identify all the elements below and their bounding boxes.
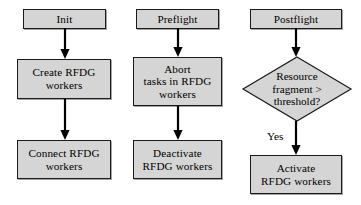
node-abort-tasks[interactable]: Abort tasks in RFDG workers: [133, 57, 222, 106]
edge-label-yes: Yes: [267, 130, 283, 142]
node-abort-tasks-label: Abort tasks in RFDG workers: [142, 63, 214, 101]
node-create-rfdg-workers[interactable]: Create RFDG workers: [17, 59, 111, 99]
node-deactivate-rfdg-workers-label: Deactivate RFDG workers: [141, 147, 215, 172]
node-connect-rfdg-workers[interactable]: Connect RFDG workers: [17, 140, 111, 179]
node-activate-rfdg-workers[interactable]: Activate RFDG workers: [250, 155, 342, 194]
edge-preflight-to-abort: [170, 28, 186, 58]
edge-decision-to-activate: [288, 121, 304, 156]
node-resource-fragment-decision[interactable]: Resource fragment > threshold?: [242, 56, 352, 122]
node-preflight-label: Preflight: [155, 13, 199, 26]
node-init-label: Init: [55, 13, 75, 26]
node-connect-rfdg-workers-label: Connect RFDG workers: [26, 147, 101, 172]
node-deactivate-rfdg-workers[interactable]: Deactivate RFDG workers: [133, 140, 222, 179]
node-preflight[interactable]: Preflight: [136, 9, 219, 29]
node-create-rfdg-workers-label: Create RFDG workers: [31, 66, 98, 91]
node-activate-rfdg-workers-label: Activate RFDG workers: [259, 162, 333, 187]
edge-abort-to-deactivate: [170, 106, 186, 141]
edge-create-to-connect: [57, 99, 73, 141]
node-resource-fragment-decision-label: Resource fragment > threshold?: [242, 56, 352, 122]
flowchart-canvas: Init Create RFDG workers Connect RFDG wo…: [0, 0, 361, 205]
node-postflight[interactable]: Postflight: [250, 9, 342, 29]
node-init[interactable]: Init: [23, 9, 106, 29]
edge-postflight-to-decision: [288, 28, 304, 58]
node-postflight-label: Postflight: [272, 13, 321, 26]
edge-init-to-create: [57, 28, 73, 60]
